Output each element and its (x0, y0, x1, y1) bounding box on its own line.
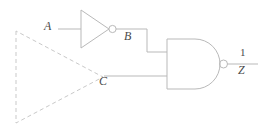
circuit-schematic (0, 0, 267, 133)
inverter-gate-body (81, 10, 109, 48)
dashed-triangle-icon (16, 31, 103, 123)
dashed-triangle-annotation (16, 31, 103, 123)
nand-gate-body (167, 39, 220, 89)
input-a-label: A (44, 20, 51, 32)
node-c-label: C (99, 75, 107, 87)
inverter-bubble-icon (109, 25, 116, 32)
nand-bubble-icon (220, 60, 228, 68)
node-b-label: B (124, 30, 131, 42)
circuit-diagram-canvas: A B C 1 Z (0, 0, 267, 133)
output-value-label: 1 (240, 47, 246, 58)
output-z-label: Z (238, 64, 245, 76)
